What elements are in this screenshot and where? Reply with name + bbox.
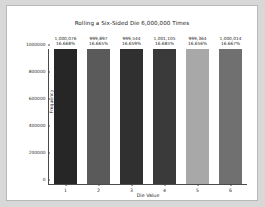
bar[interactable] [219,49,243,184]
bar[interactable] [54,49,78,184]
bar-slot: 1,000,01416.667% [219,49,243,184]
bar[interactable] [87,49,111,184]
bar-percent-label: 16.668% [55,41,77,46]
bar-value-label: 999,54416.659% [122,36,141,47]
x-axis-tick: 1 [64,184,67,193]
x-axis-tick: 5 [196,184,199,193]
bar[interactable] [153,49,177,184]
bar[interactable] [186,49,210,184]
bar-slot: 999,54416.659% [120,49,144,184]
x-axis-tick: 6 [229,184,232,193]
bar-value-label: 999,36416.656% [188,36,207,47]
plot-axes: Frequency 020000040000060000080000010000… [48,49,247,185]
bar[interactable] [120,49,144,184]
bar-value-label: 1,000,07616.668% [55,36,77,47]
figure-canvas: Rolling a Six-Sided Die 6,000,000 Times … [6,5,258,201]
y-axis-tick: 400000 [29,123,49,128]
bar-percent-label: 16.656% [188,41,207,46]
bar-value-label: 1,001,10516.685% [154,36,176,47]
bar-value-label: 1,000,01416.667% [220,36,242,47]
bar-percent-label: 16.659% [122,41,141,46]
y-axis-tick: 200000 [29,150,49,155]
y-axis-tick: 800000 [29,69,49,74]
bar-slot: 1,000,07616.668% [54,49,78,184]
bar-slot: 999,89716.665% [87,49,111,184]
bar-value-label: 999,89716.665% [89,36,108,47]
bar-group: 1,000,07616.668%999,89716.665%999,54416.… [49,49,247,184]
x-axis-tick: 3 [130,184,133,193]
bar-percent-label: 16.685% [154,41,176,46]
bar-slot: 1,001,10516.685% [153,49,177,184]
x-axis-tick: 2 [97,184,100,193]
bar-slot: 999,36416.656% [186,49,210,184]
bar-percent-label: 16.665% [89,41,108,46]
bar-percent-label: 16.667% [220,41,242,46]
chart-title: Rolling a Six-Sided Die 6,000,000 Times [7,20,257,26]
x-axis-label: Die Value [49,193,247,198]
y-axis-tick: 1000000 [26,42,49,47]
y-axis-tick: 600000 [29,96,49,101]
x-axis-tick: 4 [163,184,166,193]
